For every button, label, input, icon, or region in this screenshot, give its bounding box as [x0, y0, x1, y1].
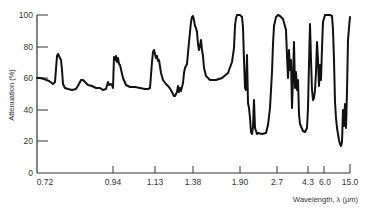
y-tick-label: 60	[24, 73, 34, 83]
x-tick-label: 0.72	[37, 177, 54, 187]
y-tick-label: 0	[28, 168, 33, 178]
y-tick-label: 80	[24, 42, 34, 52]
y-tick-label: 40	[24, 105, 34, 115]
y-axis-title: Attenuation (%)	[7, 69, 16, 121]
x-tick-label: 4.3	[302, 177, 314, 187]
x-tick-label: 15.0	[342, 177, 359, 187]
attenuation-chart: 0 20 40 60 80 100 0.72 0.94 1.13 1.38 1.…	[0, 0, 371, 213]
x-tick-label: 6.0	[319, 177, 331, 187]
y-tick-label: 20	[24, 136, 34, 146]
attenuation-curve	[37, 15, 350, 146]
x-tick-label: 0.94	[105, 177, 122, 187]
x-tick-labels: 0.72 0.94 1.13 1.38 1.90 2.7 4.3 6.0 15.…	[37, 177, 359, 187]
x-axis-title: Wavelength, λ (μm)	[293, 195, 358, 204]
x-tick-label: 1.13	[147, 177, 164, 187]
y-tick-label: 100	[19, 10, 33, 20]
y-tick-labels: 0 20 40 60 80 100	[19, 10, 33, 178]
x-ticks	[113, 164, 350, 173]
x-tick-label: 1.38	[185, 177, 202, 187]
x-tick-label: 1.90	[232, 177, 249, 187]
x-tick-label: 2.7	[271, 177, 283, 187]
